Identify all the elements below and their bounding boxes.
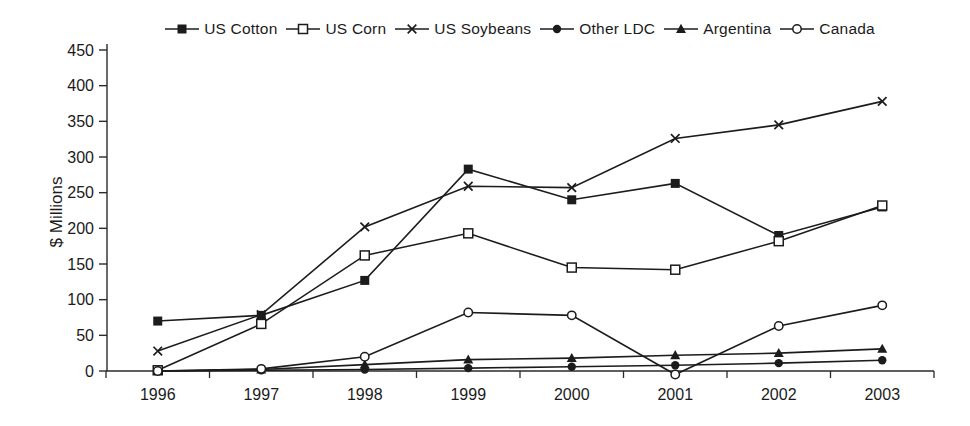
circle-filled-marker (568, 363, 576, 371)
circle-open-marker (464, 308, 472, 316)
square-open-marker (257, 319, 266, 328)
legend-label: US Soybeans (434, 20, 531, 38)
legend-square-open-icon (286, 22, 320, 36)
chart-legend: US CottonUS CornUS SoybeansOther LDCArge… (0, 20, 970, 38)
series-us-soybeans (153, 97, 886, 355)
circle-filled-marker (775, 359, 783, 367)
legend-label: Canada (819, 20, 875, 38)
circle-filled-marker (671, 361, 679, 369)
chart-page: 0501001502002503003504004501996199719981… (0, 0, 970, 426)
legend-circle-filled-icon (540, 22, 574, 36)
legend-triangle-filled-icon (664, 22, 698, 36)
y-axis-title: $ Millions (47, 177, 67, 248)
line-chart-canvas: 0501001502002503003504004501996199719981… (0, 0, 970, 426)
legend-item-other-ldc: Other LDC (540, 20, 655, 38)
y-tick-label: 250 (67, 184, 94, 201)
circle-open-marker (671, 370, 679, 378)
y-tick-label: 200 (67, 220, 94, 237)
y-tick-label: 350 (67, 113, 94, 130)
legend-item-us-cotton: US Cotton (165, 20, 277, 38)
circle-filled-marker (553, 25, 561, 33)
circle-filled-marker (464, 364, 472, 372)
square-open-marker (878, 201, 887, 210)
square-open-marker (464, 229, 473, 238)
circle-open-marker (793, 25, 801, 33)
square-filled-marker (464, 165, 473, 174)
square-open-marker (671, 265, 680, 274)
square-open-marker (360, 251, 369, 260)
legend-x-icon (395, 22, 429, 36)
series-us-corn (153, 201, 887, 375)
y-tick-label: 400 (67, 77, 94, 94)
legend-label: Other LDC (579, 20, 655, 38)
square-filled-marker (153, 317, 162, 326)
x-tick-label: 2000 (554, 386, 590, 403)
circle-filled-marker (878, 356, 886, 364)
y-tick-label: 100 (67, 291, 94, 308)
x-tick-label: 2002 (761, 386, 797, 403)
square-open-marker (774, 237, 783, 246)
series-line-us-corn (158, 206, 883, 371)
square-filled-marker (671, 179, 680, 188)
series-line-canada (158, 305, 883, 374)
circle-open-marker (361, 353, 369, 361)
x-tick-label: 1998 (347, 386, 383, 403)
y-tick-label: 450 (67, 42, 94, 59)
square-open-marker (299, 25, 308, 34)
legend-label: Argentina (703, 20, 771, 38)
x-tick-label: 2003 (864, 386, 900, 403)
square-filled-marker (567, 195, 576, 204)
legend-item-us-corn: US Corn (286, 20, 386, 38)
legend-square-filled-icon (165, 22, 199, 36)
x-tick-label: 1997 (243, 386, 279, 403)
y-tick-label: 0 (85, 363, 94, 380)
square-filled-marker (178, 25, 187, 34)
x-marker (360, 223, 369, 232)
x-tick-label: 2001 (657, 386, 693, 403)
y-tick-label: 150 (67, 256, 94, 273)
square-open-marker (567, 263, 576, 272)
legend-item-canada: Canada (780, 20, 875, 38)
legend-label: US Cotton (204, 20, 277, 38)
x-tick-label: 1996 (140, 386, 176, 403)
square-filled-marker (360, 276, 369, 285)
x-marker (153, 347, 162, 356)
legend-label: US Corn (325, 20, 386, 38)
circle-open-marker (568, 311, 576, 319)
circle-open-marker (878, 301, 886, 309)
circle-open-marker (257, 365, 265, 373)
circle-open-marker (154, 367, 162, 375)
legend-item-argentina: Argentina (664, 20, 771, 38)
legend-item-us-soybeans: US Soybeans (395, 20, 531, 38)
y-tick-label: 300 (67, 149, 94, 166)
circle-open-marker (775, 322, 783, 330)
x-tick-label: 1999 (450, 386, 486, 403)
legend-circle-open-icon (780, 22, 814, 36)
y-tick-label: 50 (76, 327, 94, 344)
